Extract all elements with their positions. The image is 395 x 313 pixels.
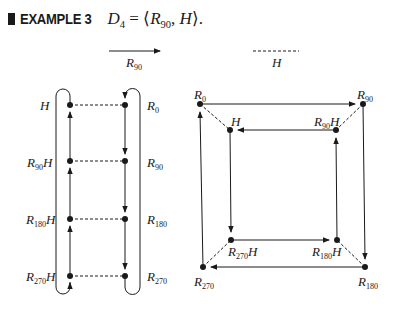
node-label-r270h: R270H <box>26 270 55 286</box>
outer-label-r0: R0 <box>194 88 206 104</box>
right-cayley-digraph <box>200 104 365 267</box>
node-label-r180h: R180H <box>26 213 55 229</box>
legend-solid-label: R90 <box>126 56 142 72</box>
left-cayley-digraph <box>56 89 140 295</box>
node-label-r90h: R90H <box>27 156 52 172</box>
inner-label-r180h: R180H <box>312 245 341 261</box>
legend-dashed-label: H <box>272 56 281 69</box>
node-label-r90: R90 <box>147 156 163 172</box>
left-diagram-vertices <box>67 102 128 279</box>
node-label-r270: R270 <box>147 270 167 286</box>
outer-label-r180: R180 <box>358 275 378 291</box>
outer-label-r90: R90 <box>357 88 373 104</box>
inner-label-r90h: R90H <box>314 115 339 131</box>
cayley-digraph-canvas <box>0 0 395 313</box>
node-label-r0: R0 <box>147 99 159 115</box>
node-label-r180: R180 <box>147 213 167 229</box>
inner-label-r270h: R270H <box>228 245 257 261</box>
inner-label-h: H <box>231 115 240 128</box>
outer-label-r270: R270 <box>194 275 214 291</box>
node-label-h: H <box>40 99 49 112</box>
